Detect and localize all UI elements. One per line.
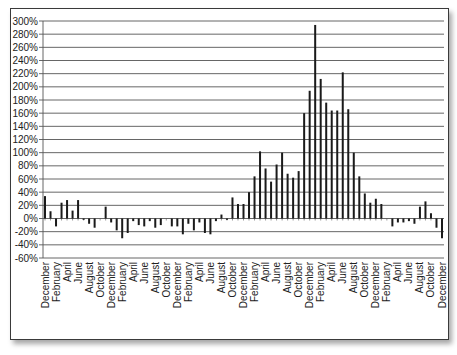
bar xyxy=(209,219,211,235)
x-axis-labels: DecemberFebruaryAprilJuneAugustOctoberDe… xyxy=(40,261,448,308)
bar xyxy=(143,219,145,227)
x-tick-label: April xyxy=(194,262,205,282)
x-tick-label: December xyxy=(304,261,315,308)
bar xyxy=(171,219,173,227)
x-tick-label: April xyxy=(62,262,73,282)
x-tick-label: February xyxy=(51,262,62,302)
y-tick-label: 160% xyxy=(12,108,38,119)
bar xyxy=(347,109,349,218)
x-tick-label: October xyxy=(293,261,304,297)
bar xyxy=(55,219,57,227)
y-tick-label: 300% xyxy=(12,16,38,27)
bar xyxy=(121,219,123,239)
y-tick-label: -60% xyxy=(15,253,38,264)
bar xyxy=(298,171,300,218)
x-tick-label: December xyxy=(370,261,381,308)
bar xyxy=(105,207,107,219)
bar xyxy=(281,153,283,219)
bar xyxy=(314,25,316,219)
y-tick-label: 260% xyxy=(12,42,38,53)
x-tick-label: February xyxy=(249,262,260,302)
bar xyxy=(176,219,178,227)
x-tick-label: December xyxy=(172,261,183,308)
y-tick-label: 0% xyxy=(24,213,39,224)
y-tick-label: 200% xyxy=(12,81,38,92)
bar xyxy=(430,213,432,218)
x-tick-label: April xyxy=(326,262,337,282)
y-tick-label: 100% xyxy=(12,147,38,158)
bar xyxy=(292,178,294,219)
x-tick-label: June xyxy=(403,262,414,284)
bar xyxy=(237,204,239,218)
y-tick-label: 140% xyxy=(12,121,38,132)
bar xyxy=(408,219,410,222)
bar xyxy=(325,103,327,219)
bar xyxy=(127,219,129,233)
bar xyxy=(220,215,222,219)
bar xyxy=(303,113,305,218)
bar xyxy=(413,219,415,224)
bar xyxy=(287,174,289,219)
bar xyxy=(336,111,338,219)
x-tick-label: August xyxy=(216,262,227,293)
bar xyxy=(154,219,156,228)
x-tick-label: August xyxy=(84,262,95,293)
bar xyxy=(309,91,311,219)
bar xyxy=(94,219,96,228)
bar xyxy=(369,203,371,219)
y-tick-label: 280% xyxy=(12,29,38,40)
bar xyxy=(248,192,250,218)
x-tick-label: August xyxy=(150,262,161,293)
x-tick-label: October xyxy=(425,261,436,297)
y-tick-label: 20% xyxy=(18,200,38,211)
x-tick-label: June xyxy=(139,262,150,284)
bar xyxy=(187,219,189,224)
bar xyxy=(160,219,162,226)
bar xyxy=(110,219,112,223)
bar xyxy=(342,72,344,218)
y-tick-label: 240% xyxy=(12,55,38,66)
x-tick-label: August xyxy=(282,262,293,293)
bar xyxy=(259,151,261,218)
y-tick-label: -40% xyxy=(15,239,38,250)
gridlines xyxy=(39,21,444,258)
x-tick-label: April xyxy=(128,262,139,282)
bar xyxy=(138,219,140,226)
bar xyxy=(50,211,52,218)
bar xyxy=(265,168,267,218)
bar xyxy=(243,204,245,218)
y-tick-label: 180% xyxy=(12,95,38,106)
bar xyxy=(276,165,278,219)
bar xyxy=(198,219,200,223)
x-tick-label: June xyxy=(73,262,84,284)
bar xyxy=(254,176,256,218)
x-tick-label: December xyxy=(40,261,51,308)
y-tick-label: 80% xyxy=(18,160,38,171)
bar xyxy=(132,219,134,222)
bar xyxy=(435,219,437,228)
bar xyxy=(116,219,118,231)
bar xyxy=(353,153,355,219)
y-tick-label: 60% xyxy=(18,174,38,185)
x-tick-label: October xyxy=(359,261,370,297)
bar xyxy=(364,193,366,218)
bar xyxy=(44,196,46,218)
bar-chart: 300%280%260%240%220%200%180%160%140%120%… xyxy=(0,0,457,355)
bar xyxy=(66,200,68,218)
x-tick-label: June xyxy=(271,262,282,284)
bar xyxy=(320,79,322,219)
x-tick-label: February xyxy=(315,262,326,302)
bar xyxy=(391,219,393,227)
x-tick-label: December xyxy=(238,261,249,308)
bar xyxy=(182,219,184,235)
bar xyxy=(149,219,151,222)
x-tick-label: August xyxy=(414,262,425,293)
bar xyxy=(77,200,79,218)
bar xyxy=(331,111,333,219)
y-tick-label: -20% xyxy=(15,226,38,237)
x-tick-label: June xyxy=(337,262,348,284)
x-tick-label: February xyxy=(381,262,392,302)
x-tick-label: October xyxy=(227,261,238,297)
x-tick-label: December xyxy=(106,261,117,308)
bar xyxy=(441,219,443,239)
